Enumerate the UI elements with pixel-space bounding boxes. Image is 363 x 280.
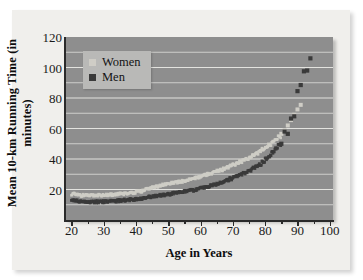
- legend: Women Men: [83, 51, 151, 89]
- x-ticklabel: 30: [87, 224, 121, 238]
- x-axis-ticklabels: 2030405060708090100: [65, 224, 333, 242]
- x-ticklabel: 40: [119, 224, 153, 238]
- x-ticklabel: 100: [313, 224, 347, 238]
- x-ticklabel: 90: [280, 224, 314, 238]
- legend-entry-men: Men: [89, 70, 141, 84]
- legend-entry-women: Women: [89, 55, 141, 69]
- y-ticklabel: 100: [22, 62, 62, 75]
- legend-label-men: Men: [102, 71, 125, 84]
- y-ticklabel: 120: [22, 31, 62, 44]
- y-ticklabel: 40: [22, 153, 62, 166]
- y-ticklabel: 20: [22, 184, 62, 197]
- figure-root: Mean 10-km Running Time (in minutes) 120…: [0, 0, 363, 280]
- y-axis-line: [64, 37, 66, 222]
- y-axis-ticklabels: 120 100 80 60 40 20: [18, 37, 62, 220]
- x-ticklabel: 50: [151, 224, 185, 238]
- x-axis-title: Age in Years: [65, 246, 333, 261]
- y-ticklabel: 80: [22, 92, 62, 105]
- x-ticklabel: 80: [248, 224, 282, 238]
- legend-marker-women-icon: [89, 59, 96, 66]
- x-ticklabel: 70: [216, 224, 250, 238]
- legend-label-women: Women: [102, 56, 141, 69]
- x-ticklabel: 60: [184, 224, 218, 238]
- plot-area: Women Men: [65, 37, 333, 220]
- series-women: [70, 103, 303, 198]
- legend-marker-men-icon: [89, 74, 96, 81]
- x-ticklabel: 20: [54, 224, 88, 238]
- y-ticklabel: 60: [22, 123, 62, 136]
